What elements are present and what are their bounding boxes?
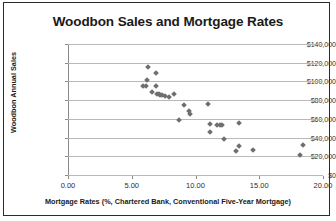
scatter-point (207, 130, 213, 136)
scatter-point (300, 142, 306, 148)
plot-area (68, 44, 323, 175)
gridline (68, 119, 323, 120)
chart-screenshot: Woodbon Sales and Mortgage Rates Woodbon… (0, 0, 336, 221)
gridline (68, 81, 323, 82)
scatter-point (143, 83, 149, 89)
scatter-point (176, 117, 182, 123)
x-tick-mark (68, 176, 69, 179)
gridline (68, 100, 323, 101)
scatter-point (221, 136, 227, 142)
scatter-point (297, 153, 303, 159)
chart-title: Woodbon Sales and Mortgage Rates (0, 14, 336, 29)
scatter-point (181, 102, 187, 108)
y-axis-title: Woodbon Annual Sales (9, 8, 18, 178)
scatter-point (236, 120, 242, 126)
x-tick-mark (132, 176, 133, 179)
x-tick-label: 15.00 (250, 181, 269, 190)
x-tick-label: 5.00 (124, 181, 139, 190)
scatter-point (153, 83, 159, 89)
scatter-point (188, 111, 194, 117)
gridline (68, 138, 323, 139)
x-tick-mark (259, 176, 260, 179)
scatter-point (250, 147, 256, 153)
x-tick-label: 20.00 (314, 181, 333, 190)
scatter-point (145, 65, 151, 71)
gridline (68, 175, 323, 176)
x-tick-label: 0.00 (61, 181, 76, 190)
x-tick-mark (323, 176, 324, 179)
scatter-point (233, 148, 239, 154)
gridline (68, 156, 323, 157)
gridline (68, 44, 323, 45)
x-tick-label: 10.00 (186, 181, 205, 190)
x-axis-title: Mortgage Rates (%, Chartered Bank, Conve… (0, 197, 336, 206)
scatter-point (205, 102, 211, 108)
scatter-point (153, 71, 159, 77)
x-tick-mark (196, 176, 197, 179)
scatter-point (207, 121, 213, 127)
gridline (68, 63, 323, 64)
